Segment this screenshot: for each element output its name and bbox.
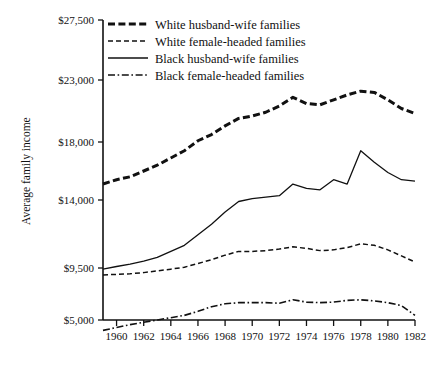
x-tick-label: 1976: [323, 330, 346, 342]
x-tick-label: 1960: [106, 330, 129, 342]
y-tick-label: $9,500: [64, 262, 95, 274]
x-axis-tick-labels: 1960196219641966196819701972197419761978…: [106, 330, 426, 342]
chart-axes: [98, 20, 415, 326]
x-tick-label: 1970: [241, 330, 264, 342]
x-tick-label: 1978: [350, 330, 373, 342]
x-tick-label: 1966: [187, 330, 210, 342]
legend-label-3: Black female-headed families: [155, 69, 304, 83]
x-tick-label: 1972: [268, 330, 290, 342]
legend-label-0: White husband-wife families: [155, 18, 300, 32]
x-tick-label: 1980: [377, 330, 400, 342]
y-axis-title: Average family income: [20, 117, 33, 225]
y-tick-label: $18,000: [58, 136, 94, 148]
y-tick-label: $5,000: [64, 314, 95, 326]
income-line-chart: Average family income $5,000$9,500$14,00…: [0, 0, 433, 367]
y-axis-tick-labels: $5,000$9,500$14,000$18,000$23,000$27,500: [58, 14, 94, 326]
y-axis-title-label: Average family income: [20, 117, 33, 225]
chart-series-group: [103, 91, 415, 330]
y-tick-label: $23,000: [58, 74, 94, 86]
x-tick-label: 1964: [160, 330, 183, 342]
chart-legend: White husband-wife familiesWhite female-…: [108, 18, 306, 83]
legend-label-2: Black husband-wife families: [155, 52, 299, 66]
y-tick-label: $14,000: [58, 194, 94, 206]
series-line-0: [103, 91, 415, 184]
series-line-2: [103, 151, 415, 269]
x-tick-label: 1982: [404, 330, 426, 342]
legend-label-1: White female-headed families: [155, 35, 306, 49]
chart-figure: Average family income $5,000$9,500$14,00…: [0, 0, 433, 367]
x-tick-label: 1968: [214, 330, 237, 342]
series-line-3: [103, 300, 415, 331]
x-tick-label: 1974: [295, 330, 318, 342]
y-tick-label: $27,500: [58, 14, 94, 26]
x-tick-label: 1962: [133, 330, 155, 342]
x-axis-tick-marks: [117, 320, 415, 326]
